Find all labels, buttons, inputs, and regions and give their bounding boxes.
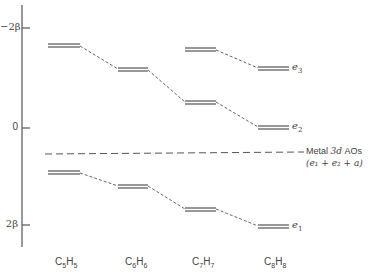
molecule-label-c6h6: C6H6 [125, 256, 147, 269]
metal-label-line2: (e₁ + e₂ + a) [306, 157, 363, 169]
mo-correlation-diagram [0, 0, 381, 277]
molecule-label-c8h8: C8H8 [264, 256, 286, 269]
label-e3: e3 [292, 61, 302, 75]
correlation-lines [80, 46, 258, 226]
metal-3d-level-line [45, 152, 304, 154]
level-c7h7-lower [185, 208, 216, 211]
level-c8h8-e1 [258, 225, 289, 228]
molecule-label-c7h7: C7H7 [192, 256, 214, 269]
level-c6h6-upper [118, 68, 148, 71]
tick-label-zero: 0 [0, 121, 18, 132]
level-c8h8-e3 [258, 67, 289, 70]
tick-label-minus-2beta: −2β [0, 21, 18, 32]
metal-3d-ao-label: Metal 3d AOs (e₁ + e₂ + a) [306, 145, 363, 169]
label-e2: e2 [292, 120, 302, 134]
label-e1: e1 [292, 219, 302, 233]
energy-levels [48, 44, 289, 228]
level-c5h5-lower [48, 171, 80, 174]
level-c8h8-e2 [258, 126, 289, 129]
level-c6h6-lower [118, 185, 148, 188]
tick-label-2beta: 2β [0, 218, 18, 229]
level-c5h5-upper [48, 44, 80, 47]
level-c7h7-middle [185, 101, 216, 104]
molecule-label-c5h5: C5H5 [55, 256, 77, 269]
metal-label-line1: Metal 3d AOs [306, 145, 363, 157]
energy-axis [22, 5, 30, 247]
level-c7h7-upper [185, 48, 216, 51]
